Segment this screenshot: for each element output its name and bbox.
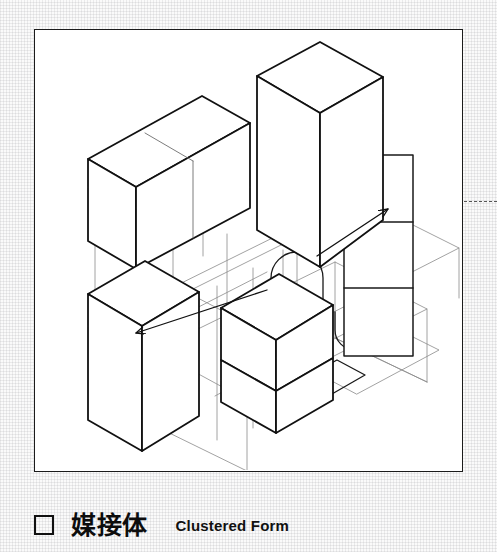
upper-left-block [88,96,250,269]
caption-square-marker [34,515,54,535]
upper-center-tower [257,42,383,267]
caption-english-label: Clustered Form [176,518,290,533]
lower-left-block [88,261,199,451]
lower-center-block [221,274,333,433]
diagram-plate [34,29,463,472]
edge-dashed-leader [464,201,497,202]
caption-japanese-label: 媒接体 [71,513,148,538]
isometric-diagram [35,30,461,470]
caption: 媒接体 Clustered Form [34,505,289,545]
